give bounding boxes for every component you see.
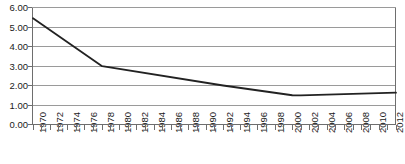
data-series-line: [33, 18, 396, 95]
x-axis-ticks: [33, 125, 396, 130]
y-axis-ticks: [28, 8, 32, 125]
plot-area: [0, 0, 405, 164]
line-chart: 6.00 5.00 4.00 3.00 2.00 1.00 0.00 1970 …: [0, 0, 405, 164]
